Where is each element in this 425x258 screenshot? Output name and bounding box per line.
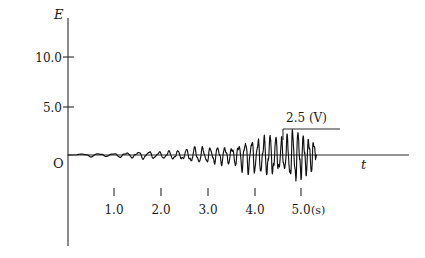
x-axis-unit-label: (s) [311,205,325,216]
y-axis-label: E [54,8,64,21]
x-tick-label-4: 4.0 [235,204,275,216]
y-tick-label-5: 5.0 [16,102,62,114]
y-tick-label-10: 10.0 [16,52,62,64]
x-tick-label-3: 3.0 [188,204,228,216]
origin-label: O [53,157,64,170]
x-tick-label-1: 1.0 [94,204,134,216]
amplitude-annotation-label: 2.5 (V) [286,112,327,124]
waveform-figure: E t O 10.0 5.0 1.0 2.0 3.0 4.0 5.0 (s) 2… [0,0,425,258]
x-tick-label-2: 2.0 [141,204,181,216]
x-axis-label: t [361,158,366,171]
plot-canvas [0,0,425,258]
